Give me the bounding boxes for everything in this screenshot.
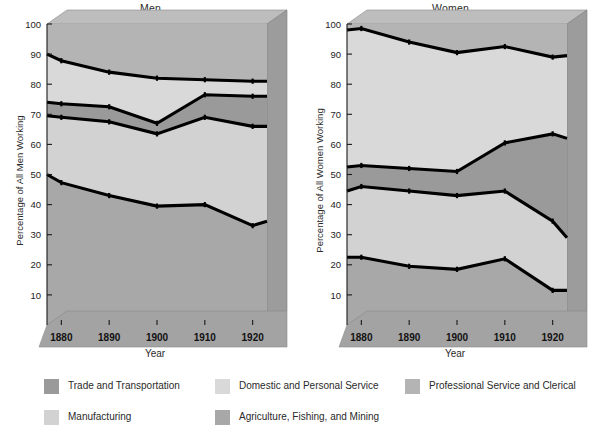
legend-label-professional-service-and-clerical: Professional Service and Clerical (429, 381, 576, 391)
y-tick-label: 60 (30, 139, 41, 150)
chart-panel-men: Men Percentage of All Men Working 102030… (0, 0, 301, 372)
legend-swatch-agriculture-fishing-and-mining (215, 410, 230, 425)
legend-label-agriculture-fishing-and-mining: Agriculture, Fishing, and Mining (239, 412, 379, 422)
x-axis-label-men: Year (40, 348, 270, 359)
y-tick-label: 20 (330, 259, 341, 270)
legend-item-manufacturing: Manufacturing (44, 409, 131, 425)
y-tick-label: 50 (330, 169, 341, 180)
y-tick-label: 70 (30, 109, 41, 120)
legend-swatch-manufacturing (44, 410, 59, 425)
y-tick-label: 90 (30, 49, 41, 60)
legend: Trade and Transportation Manufacturing D… (0, 374, 602, 433)
y-tick-label: 100 (325, 19, 341, 30)
y-tick-label: 100 (25, 19, 41, 30)
y-tick-label: 40 (30, 199, 41, 210)
x-tick-label: 1920 (542, 332, 565, 343)
legend-item-professional-service-and-clerical: Professional Service and Clerical (405, 378, 576, 394)
legend-label-trade-and-transportation: Trade and Transportation (68, 381, 180, 391)
legend-item-trade-and-transportation: Trade and Transportation (44, 378, 180, 394)
x-tick-label: 1910 (194, 332, 217, 343)
legend-swatch-professional-service-and-clerical (405, 379, 420, 394)
x-tick-label: 1880 (50, 332, 73, 343)
legend-item-agriculture-fishing-and-mining: Agriculture, Fishing, and Mining (215, 409, 379, 425)
plot-area-men: 1020304050607080901001880189019001910192… (0, 0, 301, 372)
x-tick-label: 1880 (350, 332, 373, 343)
y-tick-label: 50 (30, 169, 41, 180)
x-tick-label: 1920 (242, 332, 265, 343)
y-tick-label: 80 (330, 79, 341, 90)
x-tick-label: 1910 (494, 332, 517, 343)
legend-swatch-domestic-and-personal-service (215, 379, 230, 394)
y-tick-label: 30 (330, 229, 341, 240)
legend-label-manufacturing: Manufacturing (68, 412, 131, 422)
y-tick-label: 30 (30, 229, 41, 240)
y-tick-label: 90 (330, 49, 341, 60)
chart-panel-women: Women Percentage of All Women Working 10… (300, 0, 601, 372)
y-tick-label: 80 (30, 79, 41, 90)
x-tick-label: 1890 (98, 332, 121, 343)
x-tick-label: 1890 (398, 332, 421, 343)
legend-label-domestic-and-personal-service: Domestic and Personal Service (239, 381, 379, 391)
x-tick-label: 1900 (446, 332, 469, 343)
y-tick-label: 70 (330, 109, 341, 120)
legend-swatch-trade-and-transportation (44, 379, 59, 394)
y-tick-label: 20 (30, 259, 41, 270)
figure-root: Men Percentage of All Men Working 102030… (0, 0, 602, 433)
y-tick-label: 40 (330, 199, 341, 210)
y-tick-label: 60 (330, 139, 341, 150)
x-axis-label-women: Year (340, 348, 570, 359)
y-tick-label: 10 (30, 290, 41, 301)
plot-area-women: 1020304050607080901001880189019001910192… (300, 0, 601, 372)
x-tick-label: 1900 (146, 332, 169, 343)
legend-item-domestic-and-personal-service: Domestic and Personal Service (215, 378, 379, 394)
y-tick-label: 10 (330, 290, 341, 301)
